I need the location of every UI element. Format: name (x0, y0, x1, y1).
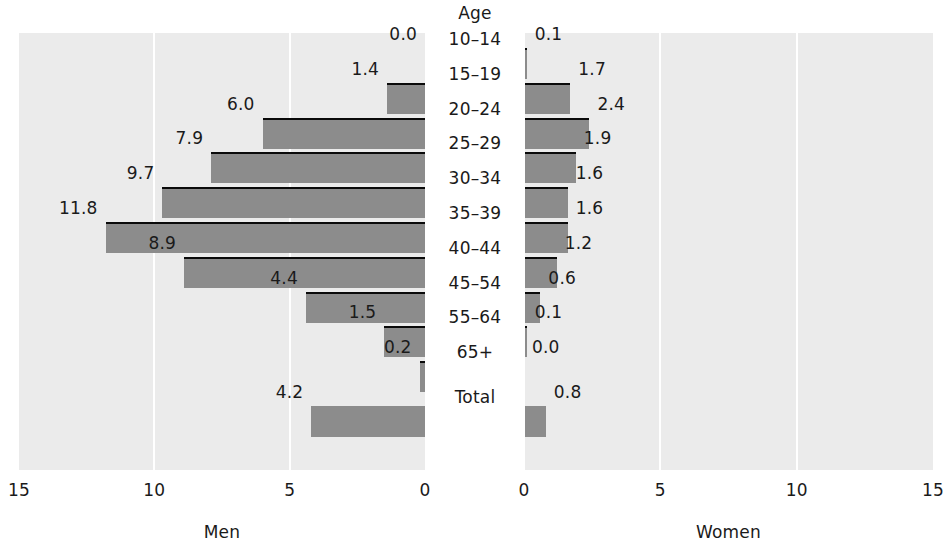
age-label-65+: 65+ (425, 344, 525, 361)
axis-title-women: Women (649, 524, 809, 541)
xtick-men-15: 15 (0, 482, 39, 499)
value-label-men-55-64: 1.5 (0, 304, 376, 321)
age-label-10-14: 10–14 (425, 31, 525, 48)
bar-women-Total (524, 406, 546, 437)
value-label-women-25-29: 1.9 (584, 130, 612, 147)
value-label-men-25-29: 7.9 (0, 130, 203, 147)
xtick-women-0: 0 (504, 482, 544, 499)
value-label-men-Total: 4.2 (0, 384, 303, 401)
value-label-women-55-64: 0.1 (535, 304, 563, 321)
age-label-Total: Total (425, 389, 525, 406)
value-label-men-40-44: 8.9 (0, 235, 176, 252)
value-label-men-30-34: 9.7 (0, 165, 154, 182)
bar-men-Total (311, 406, 425, 437)
value-label-women-35-39: 1.6 (576, 200, 604, 217)
age-label-45-54: 45–54 (425, 275, 525, 292)
center-axis-title: Age (425, 3, 525, 23)
bar-men-15-19 (387, 83, 425, 114)
age-label-15-19: 15–19 (425, 66, 525, 83)
bar-women-20-24 (524, 118, 589, 149)
value-label-men-65+: 0.2 (0, 339, 412, 356)
axis-title-men: Men (142, 524, 302, 541)
xtick-men-0: 0 (405, 482, 445, 499)
bar-women-30-34 (524, 187, 568, 218)
bar-men-25-29 (211, 152, 425, 183)
value-label-men-45-54: 4.4 (0, 270, 298, 287)
xtick-women-15: 15 (913, 482, 951, 499)
bar-women-25-29 (524, 152, 576, 183)
xtick-women-5: 5 (640, 482, 680, 499)
age-category-column: 10–1415–1920–2425–2930–3435–3940–4445–54… (425, 33, 525, 470)
xtick-men-10: 10 (134, 482, 174, 499)
gridline-women-5 (659, 33, 661, 470)
bar-men-20-24 (263, 118, 425, 149)
bar-men-30-34 (162, 187, 425, 218)
value-label-women-15-19: 1.7 (578, 61, 606, 78)
gridline-women-10 (796, 33, 798, 470)
value-label-men-35-39: 11.8 (0, 200, 98, 217)
age-label-55-64: 55–64 (425, 309, 525, 326)
value-label-men-10-14: 0.0 (0, 26, 417, 43)
age-label-35-39: 35–39 (425, 205, 525, 222)
value-label-women-20-24: 2.4 (597, 96, 625, 113)
value-label-women-30-34: 1.6 (576, 165, 604, 182)
age-label-40-44: 40–44 (425, 240, 525, 257)
value-label-women-40-44: 1.2 (565, 235, 593, 252)
value-label-women-Total: 0.8 (554, 384, 582, 401)
age-label-25-29: 25–29 (425, 135, 525, 152)
xtick-women-10: 10 (777, 482, 817, 499)
bar-women-15-19 (524, 83, 570, 114)
value-label-men-15-19: 1.4 (0, 61, 379, 78)
age-label-30-34: 30–34 (425, 170, 525, 187)
bar-women-35-39 (524, 222, 568, 253)
value-label-women-10-14: 0.1 (535, 26, 563, 43)
population-pyramid-chart: Age 10–1415–1920–2425–2930–3435–3940–444… (0, 0, 951, 557)
value-label-women-45-54: 0.6 (548, 270, 576, 287)
xtick-men-5: 5 (270, 482, 310, 499)
value-label-men-20-24: 6.0 (0, 96, 255, 113)
age-label-20-24: 20–24 (425, 101, 525, 118)
value-label-women-65+: 0.0 (532, 339, 560, 356)
